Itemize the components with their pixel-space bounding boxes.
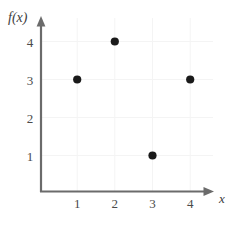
data-point <box>73 75 81 83</box>
y-axis-title: f(x) <box>8 11 27 25</box>
data-points <box>73 37 194 159</box>
data-point <box>186 75 194 83</box>
y-tick-label-2: 2 <box>22 111 38 124</box>
axis-lines <box>40 22 208 192</box>
x-tick-label-1: 1 <box>69 197 85 210</box>
y-tick-label-1: 1 <box>22 149 38 162</box>
x-axis-title: x <box>219 192 225 205</box>
gridlines <box>41 18 213 192</box>
y-tick-label-3: 3 <box>22 73 38 86</box>
data-point <box>111 37 119 45</box>
x-axis-arrowhead <box>204 187 215 196</box>
data-point <box>148 151 156 159</box>
y-tick-label-4: 4 <box>22 35 38 48</box>
x-tick-label-2: 2 <box>107 197 123 210</box>
scatter-plot-figure: f(x) x 4 3 2 1 1 2 3 4 <box>0 0 235 225</box>
x-tick-label-3: 3 <box>145 197 161 210</box>
y-axis-arrowhead <box>37 16 46 27</box>
x-tick-label-4: 4 <box>182 197 198 210</box>
